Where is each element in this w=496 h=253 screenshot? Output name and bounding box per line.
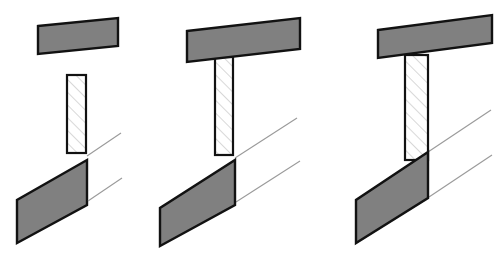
panel-1-column-hatch-fill <box>67 75 86 153</box>
panel-3-column-hatch-fill <box>405 55 428 160</box>
assembly-diagram <box>0 0 496 253</box>
panel-2-column-hatch-fill <box>215 57 233 155</box>
panel-3-column <box>405 55 428 160</box>
panel-1-column <box>67 75 86 153</box>
figure-root <box>0 0 496 253</box>
panel-2-column <box>215 57 233 155</box>
